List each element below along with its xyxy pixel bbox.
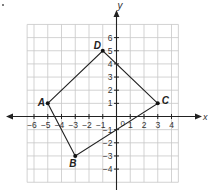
problem-bullet [2,4,4,6]
x-axis-label: x [202,112,208,122]
x-tick-label: −6 [27,120,37,130]
point-c-label: C [162,95,170,106]
coordinate-plane-figure: xy −6−5−4−3−2−11234654321−1−2−3−40 ABCD [0,0,208,190]
point-d-dot [101,49,105,53]
y-tick-label: 5 [108,46,113,56]
x-tick-label: 2 [142,120,147,130]
y-tick-label: −4 [103,164,113,174]
point-c-dot [156,101,160,105]
point-a-dot [46,101,50,105]
y-tick-label: 2 [108,85,113,95]
point-a-label: A [37,97,45,108]
x-tick-label: −2 [82,120,92,130]
y-tick-label: −3 [103,151,113,161]
point-d-label: D [94,40,101,51]
y-tick-label: 3 [108,72,113,82]
x-tick-label: −3 [68,120,78,130]
y-tick-label: −2 [103,138,113,148]
x-tick-label: 4 [169,120,174,130]
x-tick-label: −5 [41,120,51,130]
y-axis-up-arrow-icon [114,10,120,17]
x-axis-right-arrow-icon [195,114,202,120]
y-tick-label: 6 [108,33,113,43]
y-tick-label: 4 [108,59,113,69]
y-tick-label: 1 [108,98,113,108]
x-tick-label: 3 [155,120,160,130]
x-axis-left-arrow-icon [6,114,13,120]
y-axis-label: y [117,0,124,11]
points: ABCD [37,40,170,169]
coordinate-plane-svg: xy −6−5−4−3−2−11234654321−1−2−3−40 ABCD [0,0,208,190]
point-b-label: B [69,158,76,169]
x-tick-label: −4 [55,120,65,130]
